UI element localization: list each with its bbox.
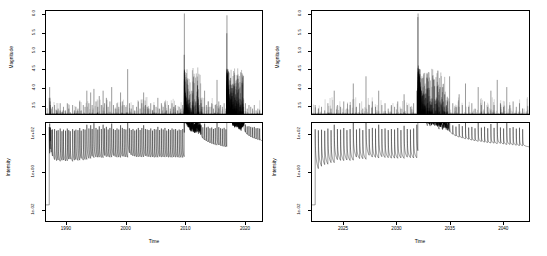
magnitude-right-y-tick: [308, 51, 311, 52]
intensity-right-y-tick: [308, 134, 311, 135]
magnitude-right-y-label: 5.0: [298, 40, 302, 60]
panel-magnitude-right: [311, 10, 530, 115]
right-x-tick: [343, 222, 344, 225]
left-x-label: 2020: [231, 227, 259, 232]
right-x-tick: [503, 222, 504, 225]
intensity-right-y-label: 1e+00: [297, 158, 301, 184]
magnitude-left-y-tick: [42, 106, 45, 107]
magnitude-right-y-label: 3.5: [298, 95, 302, 115]
intensity-right-y-tick: [308, 210, 311, 211]
magnitude-left-y-label: 4.0: [32, 77, 36, 97]
yaxis-title-magnitude-right: Magnitude: [276, 37, 281, 77]
yaxis-title-intensity-right: Intensity: [273, 147, 278, 187]
magnitude-left-y-label: 5.0: [32, 40, 36, 60]
etas-figure: 3.54.04.55.05.56.0 Magnitude 1e+021e+001…: [0, 0, 547, 256]
right-x-tick: [396, 222, 397, 225]
magnitude-left-y-label: 5.5: [32, 22, 36, 42]
plot-frame-magnitude-left: [45, 10, 263, 115]
left-x-tick: [185, 222, 186, 225]
magnitude-right-series: [312, 11, 529, 114]
magnitude-left-y-label: 6.0: [32, 4, 36, 24]
intensity-right-y-label: 1e-02: [297, 197, 301, 223]
intensity-left-series: [46, 123, 262, 221]
panel-intensity-right: [311, 122, 530, 222]
plot-frame-intensity-left: [45, 122, 263, 222]
intensity-right-y-label: 1e+02: [297, 120, 301, 146]
intensity-left-y-label: 1e-02: [31, 197, 35, 223]
magnitude-left-y-label: 4.5: [32, 58, 36, 78]
magnitude-left-y-tick: [42, 69, 45, 70]
left-x-tick: [66, 222, 67, 225]
magnitude-left-y-tick: [42, 88, 45, 89]
right-x-label: 2025: [329, 227, 357, 232]
magnitude-right-y-tick: [308, 106, 311, 107]
magnitude-left-series: [46, 11, 262, 114]
xaxis-title-left: Time: [114, 240, 194, 245]
right-x-label: 2030: [382, 227, 410, 232]
right-x-tick: [450, 222, 451, 225]
magnitude-left-y-label: 3.5: [32, 95, 36, 115]
plot-frame-magnitude-right: [311, 10, 530, 115]
magnitude-right-y-tick: [308, 69, 311, 70]
magnitude-right-y-tick: [308, 14, 311, 15]
intensity-left-y-tick: [42, 172, 45, 173]
yaxis-title-intensity-left: Intensity: [7, 147, 12, 187]
magnitude-right-y-tick: [308, 33, 311, 34]
left-x-label: 2000: [112, 227, 140, 232]
intensity-left-y-tick: [42, 210, 45, 211]
right-x-label: 2035: [436, 227, 464, 232]
intensity-right-series: [312, 123, 529, 221]
magnitude-left-y-tick: [42, 51, 45, 52]
left-x-label: 1990: [52, 227, 80, 232]
magnitude-left-y-tick: [42, 14, 45, 15]
magnitude-left-y-tick: [42, 33, 45, 34]
plot-frame-intensity-right: [311, 122, 530, 222]
magnitude-right-y-label: 4.0: [298, 77, 302, 97]
panel-intensity-left: [45, 122, 263, 222]
yaxis-title-magnitude-left: Magnitude: [10, 37, 15, 77]
xaxis-title-right: Time: [380, 240, 460, 245]
panel-magnitude-left: [45, 10, 263, 115]
intensity-left-y-label: 1e+02: [31, 120, 35, 146]
magnitude-right-y-label: 5.5: [298, 22, 302, 42]
intensity-left-y-tick: [42, 134, 45, 135]
left-x-tick: [245, 222, 246, 225]
intensity-left-y-label: 1e+00: [31, 158, 35, 184]
right-x-label: 2040: [489, 227, 517, 232]
magnitude-right-y-label: 6.0: [298, 4, 302, 24]
magnitude-right-y-tick: [308, 88, 311, 89]
left-x-label: 2010: [171, 227, 199, 232]
left-x-tick: [126, 222, 127, 225]
magnitude-right-y-label: 4.5: [298, 58, 302, 78]
intensity-right-y-tick: [308, 172, 311, 173]
